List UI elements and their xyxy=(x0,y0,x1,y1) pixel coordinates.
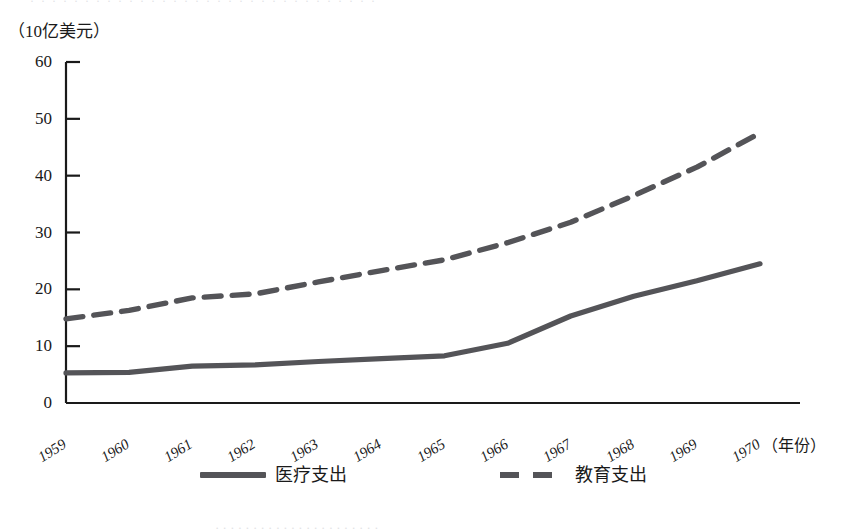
legend-label: 教育支出 xyxy=(575,466,647,484)
plot-area: 0102030405060 xyxy=(0,40,866,420)
y-tick-label: 20 xyxy=(18,280,52,297)
clipped-bottom-caption: · · · · · · · · · · · · · · · · · · · · … xyxy=(215,520,655,529)
x-tick-label: 1960 xyxy=(98,436,132,466)
clipped-top-text: · · · · · · · · · · · · · · · · · · · · … xyxy=(30,0,830,8)
data-series-group xyxy=(66,133,760,373)
y-tick-label: 10 xyxy=(18,337,52,354)
x-tick-label: 1964 xyxy=(350,436,384,466)
legend-item-1[interactable]: 医疗支出 xyxy=(200,466,347,484)
y-tick-label: 40 xyxy=(18,167,52,184)
chart-figure: · · · · · · · · · · · · · · · · · · · · … xyxy=(0,0,866,529)
axis-lines xyxy=(66,62,800,403)
x-tick-label: 1969 xyxy=(666,436,700,466)
legend-swatch-solid-icon xyxy=(200,472,266,478)
x-tick-label: 1968 xyxy=(603,436,637,466)
plot-svg xyxy=(0,40,866,420)
y-tick-label: 60 xyxy=(18,53,52,70)
x-tick-label: 1967 xyxy=(540,436,574,466)
x-axis-title: （年份） xyxy=(762,432,826,456)
chart-legend: 医疗支出教育支出 xyxy=(0,466,866,500)
series-line-1 xyxy=(66,264,760,373)
legend-label: 医疗支出 xyxy=(275,466,347,484)
y-tick-label: 0 xyxy=(18,394,52,411)
y-axis-unit-label: （10亿美元） xyxy=(8,23,110,40)
legend-swatch-dashed-icon xyxy=(500,472,566,478)
x-tick-label: 1963 xyxy=(287,436,321,466)
y-tick-label: 50 xyxy=(18,110,52,127)
x-tick-label: 1970 xyxy=(729,436,763,466)
y-tick-label: 30 xyxy=(18,224,52,241)
legend-item-2[interactable]: 教育支出 xyxy=(500,466,647,484)
x-tick-label: 1966 xyxy=(477,436,511,466)
x-tick-label: 1962 xyxy=(224,436,258,466)
y-axis-ticks xyxy=(66,62,80,403)
x-tick-label: 1965 xyxy=(414,436,448,466)
x-tick-label: 1959 xyxy=(35,436,69,466)
x-tick-label: 1961 xyxy=(161,436,195,466)
